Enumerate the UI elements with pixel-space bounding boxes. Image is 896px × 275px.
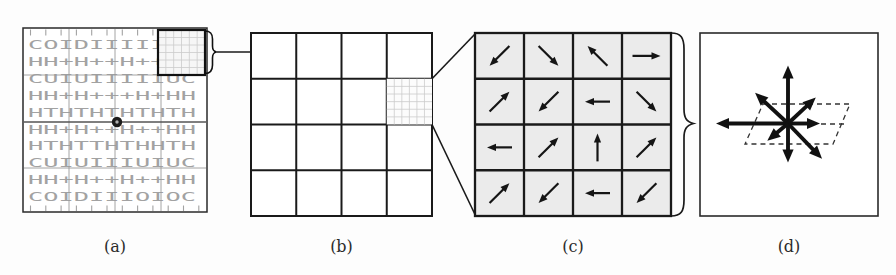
- texture-row: HTHTHTHTHTH: [28, 106, 196, 120]
- texture-row: HH+H+++H+HH: [28, 89, 196, 103]
- histogram-brace: [671, 33, 694, 216]
- caption-d: (d): [778, 237, 801, 256]
- panel-d-histogram-box: [700, 33, 878, 216]
- descriptor-diagram: COIDIIIIIOCHH+H++H++HHCUIUIIIIIUCHH+H+++…: [0, 0, 896, 275]
- zoom-window: [158, 30, 205, 75]
- texture-row: HH+H++H++HH: [28, 123, 196, 137]
- texture-row: HH+H++H++HH: [28, 173, 196, 187]
- texture-row: COIDIIIOIOC: [28, 190, 196, 204]
- expansion-line-top: [432, 34, 476, 79]
- caption-b: (b): [330, 237, 353, 256]
- caption-a: (a): [104, 237, 126, 256]
- panel-b-grid: [251, 33, 476, 216]
- expansion-line-bottom: [432, 125, 476, 216]
- caption-c: (c): [562, 237, 583, 256]
- panel-c-gradient-grid: [475, 33, 694, 216]
- panel-a-image-patch: COIDIIIIIOCHH+H++H++HHCUIUIIIIIUCHH+H+++…: [23, 28, 217, 212]
- highlighted-subregion: [387, 79, 432, 125]
- keypoint-marker: [112, 117, 122, 127]
- texture-row: HTHTTHTHHTH: [28, 139, 196, 153]
